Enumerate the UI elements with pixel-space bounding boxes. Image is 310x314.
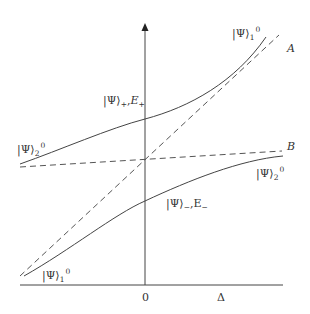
diabatic-line-A xyxy=(20,35,279,276)
label-right-lower-state: |Ψ⟩20 xyxy=(256,165,284,182)
avoided-crossing-diagram: |Ψ⟩10 A |Ψ⟩+,E+ |Ψ⟩20 B |Ψ⟩20 |Ψ⟩−,E− |Ψ… xyxy=(0,0,310,314)
label-line-B: B xyxy=(286,140,295,153)
y-axis-arrow-icon xyxy=(142,23,149,31)
lower-adiabatic-curve xyxy=(24,156,283,276)
x-axis-label-delta: Δ xyxy=(217,291,225,304)
origin-label: 0 xyxy=(142,291,149,304)
label-lower-state-energy: |Ψ⟩−,E− xyxy=(166,197,208,212)
diabatic-line-B xyxy=(20,151,282,167)
label-upper-right-state: |Ψ⟩10 xyxy=(232,25,260,42)
label-line-A: A xyxy=(286,42,295,55)
label-upper-state-energy: |Ψ⟩+,E+ xyxy=(103,94,145,109)
label-left-upper-state: |Ψ⟩20 xyxy=(17,141,45,158)
label-lower-left-state: |Ψ⟩10 xyxy=(42,267,70,284)
